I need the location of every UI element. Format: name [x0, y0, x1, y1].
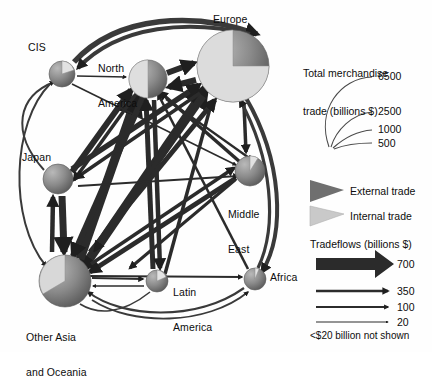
legend-flow-700: [316, 250, 394, 278]
legend-size-title-line1: Total merchandise: [303, 67, 388, 80]
node-japan[interactable]: [43, 164, 73, 194]
node-cis[interactable]: [49, 61, 75, 87]
legend-external-trade-label: External trade: [350, 185, 415, 197]
legend-internal-trade-label: Internal trade: [350, 210, 412, 222]
node-middle-east[interactable]: [235, 156, 265, 186]
node-label-other-asia-line1: Other Asia: [26, 332, 87, 344]
node-label-north-america: North America: [98, 40, 137, 132]
node-label-europe: Europe: [213, 14, 247, 26]
flow-europe-northamerica: [169, 80, 196, 87]
legend-trade-type-swatches: [310, 180, 344, 226]
legend-flows-footnote: <$20 billion not shown: [310, 330, 409, 341]
node-label-middle-east-line1: Middle: [228, 209, 260, 221]
legend-flow-value-350: 350: [397, 285, 415, 297]
legend-flow-arrows: [316, 250, 394, 322]
node-label-latin-america: Latin America: [173, 264, 212, 356]
flow-web-3: [130, 180, 235, 268]
node-label-north-america-line2: America: [98, 98, 137, 110]
node-latin-america[interactable]: [146, 270, 168, 292]
flow-japan-otherasia: [62, 196, 64, 252]
legend-flow-value-700: 700: [397, 258, 415, 270]
legend-flow-value-100: 100: [397, 301, 415, 313]
legend-flow-value-20: 20: [397, 316, 409, 328]
node-label-other-asia-oceania: Other Asia and Oceania: [26, 309, 87, 380]
legend-size-title-line2: trade (billions $): [303, 105, 388, 118]
legend-flows-title: Tradeflows (billions $): [310, 238, 412, 251]
legend-size-title: Total merchandise trade (billions $): [303, 42, 388, 142]
legend-size-value-2500: 2500: [378, 105, 401, 117]
node-label-middle-east-line2: East: [228, 244, 260, 256]
node-label-japan: Japan: [22, 152, 51, 164]
flow-otherasia-japan: [52, 197, 53, 252]
node-label-cis: CIS: [28, 42, 46, 54]
internal-trade-swatch: [310, 206, 344, 226]
node-label-latin-america-line2: America: [173, 322, 212, 334]
node-label-north-america-line1: North: [98, 63, 137, 75]
legend-size-value-6500: 6500: [378, 70, 401, 82]
node-label-latin-america-line1: Latin: [173, 287, 212, 299]
flow-northamerica-europe: [167, 63, 194, 73]
node-label-africa: Africa: [270, 272, 297, 284]
flow-otherasia-latinamerica: [92, 278, 143, 279]
legend-size-value-1000: 1000: [378, 123, 401, 135]
legend-arc-500: [334, 143, 372, 149]
node-label-other-asia-line2: and Oceania: [26, 367, 87, 379]
external-trade-swatch: [310, 180, 344, 202]
flow-otherasia-middleeast: [91, 168, 234, 264]
node-europe[interactable]: [197, 30, 269, 102]
legend-size-value-500: 500: [378, 137, 396, 149]
node-other-asia-oceania[interactable]: [39, 255, 91, 307]
node-label-middle-east: Middle East: [228, 186, 260, 278]
